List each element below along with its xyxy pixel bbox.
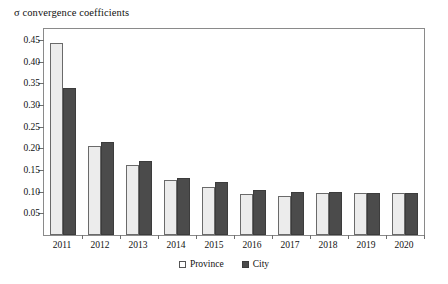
x-axis-tick-mark xyxy=(424,235,425,239)
x-axis-tick-mark xyxy=(310,235,311,239)
bar-city-2014 xyxy=(177,178,190,235)
chart-title: σ convergence coefficients xyxy=(14,6,129,19)
bar-province-2019 xyxy=(354,193,367,235)
x-axis-tick-mark xyxy=(196,235,197,239)
legend-label: City xyxy=(253,258,269,270)
x-axis-tick-mark xyxy=(82,235,83,239)
bar-city-2016 xyxy=(253,190,266,235)
y-axis-tick-label: 0.40 xyxy=(23,57,40,67)
y-axis-tick-label: 0.20 xyxy=(23,143,40,153)
bar-province-2017 xyxy=(278,196,291,235)
x-axis-label-2011: 2011 xyxy=(43,240,81,251)
legend-item-province[interactable]: Province xyxy=(179,258,224,270)
bar-city-2018 xyxy=(329,192,342,235)
x-axis-tick-mark xyxy=(120,235,121,239)
y-axis-tick-label: 0.45 xyxy=(23,35,40,45)
bar-city-2013 xyxy=(139,161,152,235)
x-axis-tick-mark xyxy=(234,235,235,239)
bar-city-2020 xyxy=(405,193,418,235)
legend-label: Province xyxy=(190,258,224,270)
x-axis-tick-mark xyxy=(158,235,159,239)
y-axis-tick-label: 0.30 xyxy=(23,100,40,110)
y-axis-tick-label: 0.10 xyxy=(23,187,40,197)
bar-province-2011 xyxy=(50,43,63,235)
x-axis-label-2018: 2018 xyxy=(309,240,347,251)
x-axis-label-2012: 2012 xyxy=(81,240,119,251)
x-axis-label-2019: 2019 xyxy=(347,240,385,251)
chart-legend: ProvinceCity xyxy=(0,258,448,270)
bar-province-2012 xyxy=(88,146,101,235)
city-swatch-icon xyxy=(242,261,249,268)
bar-city-2015 xyxy=(215,182,228,235)
x-axis-label-2015: 2015 xyxy=(195,240,233,251)
province-swatch-icon xyxy=(179,261,186,268)
bar-province-2020 xyxy=(392,193,405,235)
x-axis-label-2013: 2013 xyxy=(119,240,157,251)
bar-city-2011 xyxy=(63,88,76,235)
bar-city-2012 xyxy=(101,142,114,235)
bar-province-2016 xyxy=(240,194,253,235)
x-axis-label-2017: 2017 xyxy=(271,240,309,251)
x-axis-label-2016: 2016 xyxy=(233,240,271,251)
y-axis-tick-label: 0.25 xyxy=(23,122,40,132)
x-axis-tick-mark xyxy=(348,235,349,239)
bar-province-2013 xyxy=(126,165,139,235)
plot-area: 0.050.100.150.200.250.300.350.400.45 xyxy=(43,28,425,236)
bar-city-2017 xyxy=(291,192,304,235)
bar-province-2014 xyxy=(164,180,177,235)
x-axis-label-2014: 2014 xyxy=(157,240,195,251)
y-axis-tick-label: 0.35 xyxy=(23,78,40,88)
legend-item-city[interactable]: City xyxy=(242,258,269,270)
sigma-convergence-bar-chart: σ convergence coefficients 0.050.100.150… xyxy=(0,0,448,284)
plot-inner: 0.050.100.150.200.250.300.350.400.45 xyxy=(44,29,424,235)
x-axis-label-2020: 2020 xyxy=(385,240,423,251)
y-axis-tick-label: 0.15 xyxy=(23,165,40,175)
bar-province-2018 xyxy=(316,193,329,235)
bar-city-2019 xyxy=(367,193,380,236)
bar-province-2015 xyxy=(202,187,215,235)
x-axis-tick-mark xyxy=(386,235,387,239)
y-axis-tick-label: 0.05 xyxy=(23,208,40,218)
x-axis-tick-mark xyxy=(272,235,273,239)
